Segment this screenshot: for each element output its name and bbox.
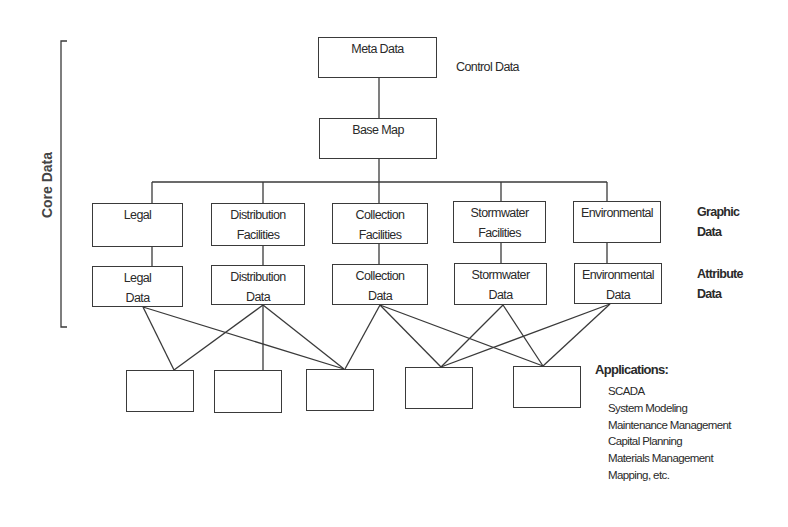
applications-title: Applications:	[595, 362, 668, 377]
applications-list: SCADA System Modeling Maintenance Manage…	[608, 383, 731, 484]
meta-data-box: Meta Data	[318, 37, 437, 78]
graphic-data-label: Graphic Data	[697, 202, 739, 242]
collection-data-box: Collection Data	[332, 264, 428, 305]
box-label: Environmental	[581, 203, 653, 223]
box-label: Facilities	[359, 225, 402, 245]
distribution-data-box: Distribution Data	[211, 265, 305, 305]
box-label: Data	[125, 288, 149, 308]
legal-data-box: Legal Data	[92, 266, 183, 307]
stormwater-data-box: Stormwater Data	[454, 263, 547, 305]
box-label: Data	[368, 286, 392, 306]
application-item: System Modeling	[608, 400, 731, 417]
base-map-box: Base Map	[319, 118, 437, 159]
box-label: Collection	[356, 266, 405, 286]
stormwater-facilities-box: Stormwater Facilities	[453, 201, 546, 243]
box-label: Data	[488, 285, 512, 305]
distribution-facilities-box: Distribution Facilities	[211, 203, 305, 246]
base-map-label: Base Map	[352, 120, 403, 140]
application-item: Maintenance Management	[608, 417, 731, 434]
box-label: Distribution	[230, 205, 285, 225]
application-item: Capital Planning	[608, 433, 731, 450]
application-box-5	[513, 366, 581, 408]
core-data-label: Core Data	[22, 160, 72, 210]
box-label: Environmental	[582, 265, 654, 285]
application-item: SCADA	[608, 383, 731, 400]
application-item: Materials Management	[608, 450, 731, 467]
box-label: Data	[606, 285, 630, 305]
label-line: Data	[697, 222, 739, 242]
application-item: Mapping, etc.	[608, 467, 731, 484]
box-label: Legal	[124, 205, 152, 225]
collection-facilities-box: Collection Facilities	[332, 203, 428, 244]
environmental-data-box: Environmental Data	[574, 263, 662, 304]
application-box-2	[214, 370, 282, 413]
application-box-1	[126, 370, 194, 412]
label-line: Data	[697, 284, 743, 304]
environmental-box: Environmental	[573, 201, 661, 243]
box-label: Collection	[356, 205, 405, 225]
box-label: Data	[246, 287, 270, 307]
legal-box: Legal	[92, 203, 183, 247]
box-label: Facilities	[478, 223, 521, 243]
box-label: Distribution	[230, 267, 285, 287]
attribute-data-label: Attribute Data	[697, 264, 743, 304]
box-label: Stormwater	[471, 203, 529, 223]
meta-data-label: Meta Data	[351, 39, 403, 59]
label-line: Attribute	[697, 264, 743, 284]
box-label: Facilities	[237, 225, 280, 245]
box-label: Legal	[124, 268, 152, 288]
label-line: Graphic	[697, 202, 739, 222]
control-data-label: Control Data	[456, 60, 519, 74]
box-label: Stormwater	[472, 265, 530, 285]
application-box-4	[405, 367, 473, 409]
application-box-3	[306, 369, 374, 411]
